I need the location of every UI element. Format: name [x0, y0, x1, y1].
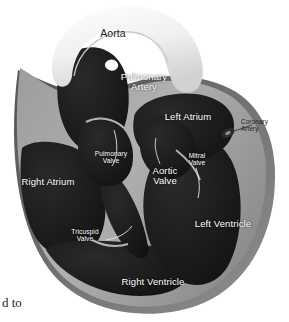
- page-body-text-fragment: d to: [2, 295, 22, 311]
- heart-diagram-svg: [0, 0, 289, 322]
- heart-anatomy-figure: Aorta Pulmonary Artery Left Atrium Right…: [0, 0, 289, 322]
